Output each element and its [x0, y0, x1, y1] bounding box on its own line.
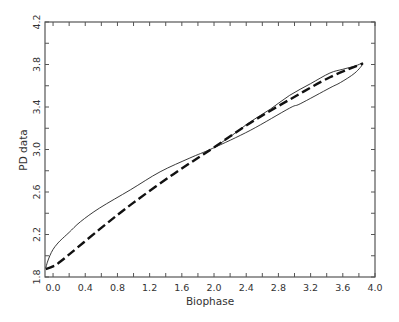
y-tick-label: 2.2: [31, 227, 42, 242]
x-tick-label: 3.2: [303, 282, 318, 293]
y-tick-label: 4.2: [31, 14, 42, 29]
y-axis-label: PD data: [17, 129, 29, 170]
x-tick-label: 2.0: [206, 282, 221, 293]
y-tick-label: 3.8: [31, 57, 42, 72]
y-tick-label: 1.8: [31, 269, 42, 284]
x-tick-label: 4.0: [367, 282, 382, 293]
x-axis-ticks: 0.00.40.81.21.62.02.42.83.23.64.0: [45, 22, 382, 293]
chart: 0.00.40.81.21.62.02.42.83.23.64.0 1.82.2…: [0, 0, 399, 322]
x-tick-label: 2.4: [239, 282, 254, 293]
y-tick-label: 3.4: [31, 99, 42, 114]
x-tick-label: 0.0: [45, 282, 60, 293]
y-tick-label: 2.6: [31, 184, 42, 199]
x-tick-label: 3.6: [335, 282, 350, 293]
model-fit-curve: [46, 63, 363, 269]
x-tick-label: 0.4: [78, 282, 93, 293]
series-layer: [46, 63, 363, 269]
x-tick-label: 1.6: [174, 282, 189, 293]
observed-curve: [46, 63, 363, 268]
x-tick-label: 0.8: [110, 282, 125, 293]
y-tick-label: 3.0: [31, 142, 42, 157]
x-tick-label: 1.2: [142, 282, 157, 293]
x-tick-label: 2.8: [271, 282, 286, 293]
x-axis-label: Biophase: [186, 295, 234, 307]
